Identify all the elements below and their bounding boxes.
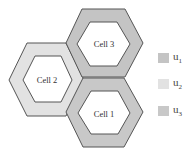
cell-2-label: Cell 2 — [37, 75, 58, 85]
legend-label-u1: u1 — [173, 50, 182, 65]
cell-3-label: Cell 3 — [94, 39, 115, 49]
cell-3: Cell 3 — [66, 9, 143, 77]
legend-item-u3: u3 — [158, 105, 182, 117]
legend-swatch-u1 — [158, 53, 169, 63]
legend-swatch-u2 — [158, 79, 169, 89]
cell-1: Cell 1 — [66, 78, 143, 147]
legend-item-u2: u2 — [158, 78, 182, 90]
cell-1-label: Cell 1 — [94, 109, 115, 119]
legend-label-u3: u3 — [173, 103, 182, 118]
legend-item-u1: u1 — [158, 52, 182, 64]
legend-label-u2: u2 — [173, 76, 182, 91]
legend-swatch-u3 — [158, 106, 169, 116]
